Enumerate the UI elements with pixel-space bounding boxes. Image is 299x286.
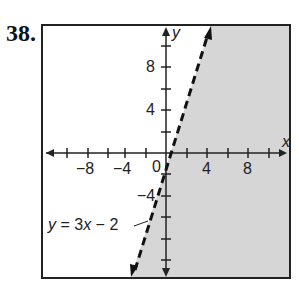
x-tick-label: 4 <box>202 160 211 177</box>
origin-label: 0 <box>152 158 161 175</box>
x-tick-label: 8 <box>243 160 252 177</box>
x-axis-arrow-left-icon <box>46 149 54 157</box>
x-axis <box>46 148 284 158</box>
equation-label: y = 3x − 2 <box>47 216 118 233</box>
x-tick-label: −8 <box>76 160 94 177</box>
y-tick-label: 4 <box>146 101 155 118</box>
graph: y x −8 −4 0 4 8 8 4 −4 y = 3x − 2 <box>0 0 299 286</box>
y-tick-label: −4 <box>137 187 155 204</box>
x-tick-label: −4 <box>113 160 131 177</box>
y-tick-label: 8 <box>146 58 155 75</box>
x-axis-label: x <box>281 133 291 150</box>
equation-pointer <box>134 221 148 226</box>
y-axis-label: y <box>171 24 181 41</box>
line-arrow-up-icon <box>204 26 212 40</box>
y-axis-arrow-up-icon <box>162 27 170 36</box>
